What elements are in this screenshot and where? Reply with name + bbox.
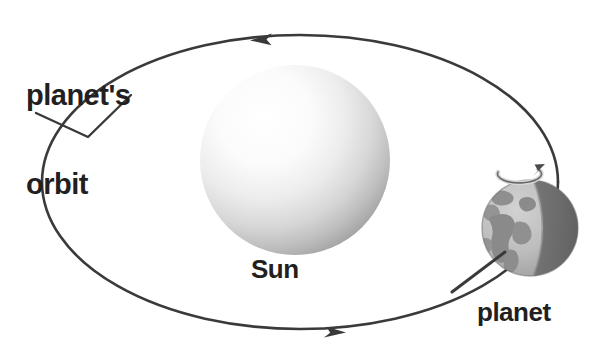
orbit-label: planet's orbit (26, 22, 130, 259)
orbit-arrow-top (250, 34, 272, 46)
orbit-foreground-segment (452, 252, 505, 292)
planet-rotation-arrow (498, 164, 545, 183)
orbit-label-line2: orbit (26, 170, 130, 200)
planet-label: planet (477, 299, 551, 326)
orbit-label-line1: planet's (26, 81, 130, 111)
orbit-diagram: planet's orbit Sun planet (0, 0, 599, 364)
sun-sphere[interactable] (200, 65, 390, 255)
sun-label: Sun (251, 256, 299, 283)
